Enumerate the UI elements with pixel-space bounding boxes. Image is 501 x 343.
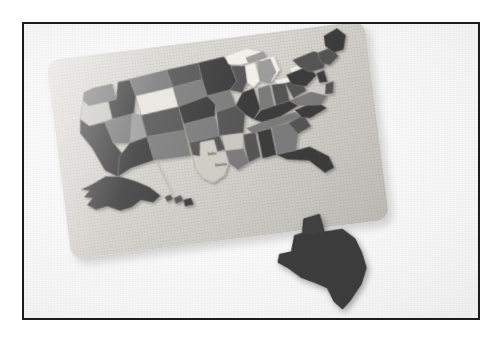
photo-frame: Dallas Houston [22, 22, 480, 320]
screenshot-root: Dallas Houston [0, 0, 501, 343]
texas-piece-shape[interactable] [267, 207, 382, 318]
detached-texas-piece[interactable] [267, 207, 382, 318]
